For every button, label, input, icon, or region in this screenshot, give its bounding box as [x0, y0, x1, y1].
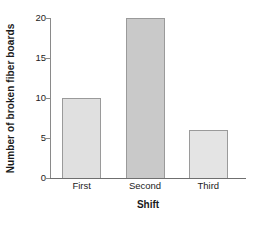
y-axis-title: Number of broken fiber boards [0, 0, 22, 196]
bar [62, 98, 101, 178]
y-axis-tick-mark [45, 98, 50, 99]
y-axis-tick-mark [45, 58, 50, 59]
x-axis-tick-label: Second [129, 181, 161, 191]
y-axis-line [50, 18, 51, 178]
y-axis-tick-label: 15 [24, 53, 46, 63]
y-axis-tick-labels: 05101520 [24, 0, 46, 230]
bar-chart-figure: Number of broken fiber boards 05101520 F… [0, 0, 256, 230]
y-axis-title-text: Number of broken fiber boards [6, 23, 17, 173]
y-axis-tick-label: 20 [24, 13, 46, 23]
x-axis-tick-labels: FirstSecondThird [50, 181, 246, 197]
bar [189, 130, 228, 178]
x-axis-tick-label: First [72, 181, 90, 191]
x-axis-title: Shift [50, 199, 246, 210]
bar [126, 18, 165, 178]
x-axis-tick-label: Third [198, 181, 220, 191]
y-axis-tick-mark [45, 178, 50, 179]
y-axis-tick-label: 5 [24, 133, 46, 143]
y-axis-tick-label: 0 [24, 173, 46, 183]
x-axis-line [50, 178, 246, 179]
y-axis-tick-mark [45, 138, 50, 139]
y-axis-tick-mark [45, 18, 50, 19]
y-axis-tick-label: 10 [24, 93, 46, 103]
plot-area [50, 18, 240, 178]
